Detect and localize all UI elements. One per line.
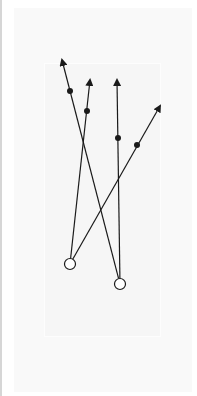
route-dot-r2 [134,142,140,148]
player-circle-p2 [115,279,126,290]
route-dot-r3 [67,88,73,94]
route-dot-r1 [84,108,90,114]
route-arrow-r4 [117,80,120,279]
route-dot-r4 [115,135,121,141]
player-circle-p1 [65,259,76,270]
route-arrow-r2 [73,106,160,259]
play-diagram [0,0,197,396]
